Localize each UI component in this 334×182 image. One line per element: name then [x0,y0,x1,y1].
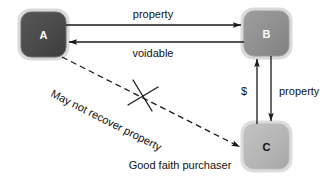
caption-good-faith-purchaser: Good faith purchaser [129,159,232,171]
edge-a-to-c-label: May not recover property [49,87,164,153]
edge-a-to-c-dashed-line [62,57,240,147]
diagram-canvas: A B C property voidable $ [0,0,334,182]
blocked-cross-icon [128,80,158,111]
node-a[interactable]: A [18,9,70,61]
edge-a-to-b: property [66,8,241,25]
node-b[interactable]: B [241,8,293,60]
node-c-label: C [263,141,271,153]
edge-a-to-c-blocked: May not recover property [49,57,240,153]
node-c[interactable]: C [241,121,293,173]
edge-b-to-c: property [271,56,320,121]
diagram-svg: A B C property voidable $ [0,0,334,182]
edge-b-to-a-label: voidable [133,47,174,59]
edge-c-to-b-label: $ [241,85,247,97]
edge-b-to-c-label: property [279,85,320,97]
edge-b-to-a: voidable [69,42,244,59]
edge-c-to-b: $ [241,59,257,124]
node-b-label: B [263,28,271,40]
edge-a-to-b-label: property [133,8,174,20]
node-a-label: A [40,29,48,41]
